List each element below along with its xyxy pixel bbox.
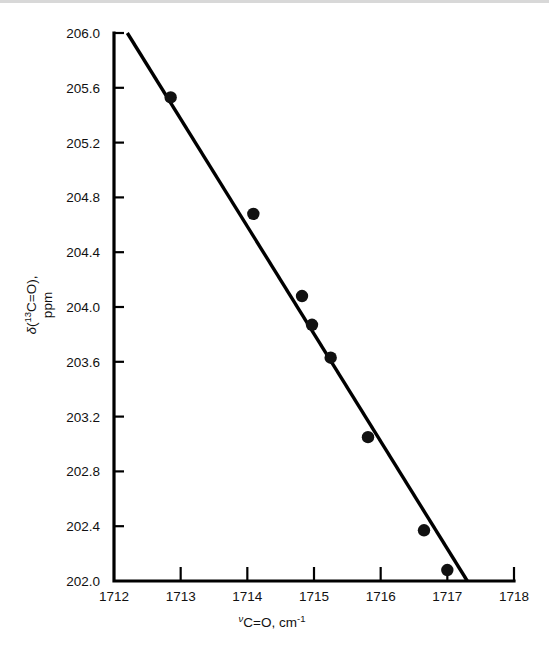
x-tick-label: 1712 [99,589,129,604]
data-point [418,524,430,536]
chart-background [0,0,549,645]
exponent-minus-one: -1 [297,613,305,624]
data-point [441,564,453,576]
y-tick-label: 202.4 [66,519,100,534]
scan-artifact-band [0,0,549,3]
isotope-13: 13 [22,312,33,323]
y-tick-label: 203.2 [66,410,100,425]
y-tick-label: 203.6 [66,355,100,370]
y-tick-label: 204.8 [66,190,100,205]
data-point [306,319,318,331]
y-tick-label: 205.6 [66,81,100,96]
y-axis-title-line1: δ(13C=O), [22,276,39,335]
data-point [164,91,176,103]
y-tick-label: 206.0 [66,26,100,41]
y-axis-title-line2: ppm [40,292,55,318]
y-tick-label: 202.0 [66,574,100,589]
x-tick-label: 1715 [299,589,329,604]
data-point [362,431,374,443]
y-tick-label: 204.0 [66,300,100,315]
x-tick-label: 1716 [366,589,396,604]
x-tick-label: 1714 [232,589,263,604]
x-tick-label: 1713 [166,589,196,604]
x-tick-label: 1718 [499,589,529,604]
data-point [247,208,259,220]
y-tick-label: 204.4 [66,245,100,260]
scatter-chart: 202.0202.4202.8203.2203.6204.0204.4204.8… [0,0,549,645]
data-point [296,290,308,302]
x-axis-title: νC=O, cm-1 [239,613,306,630]
y-tick-label: 205.2 [66,136,100,151]
data-point [324,351,336,363]
x-tick-label: 1717 [432,589,462,604]
y-tick-label: 202.8 [66,464,100,479]
